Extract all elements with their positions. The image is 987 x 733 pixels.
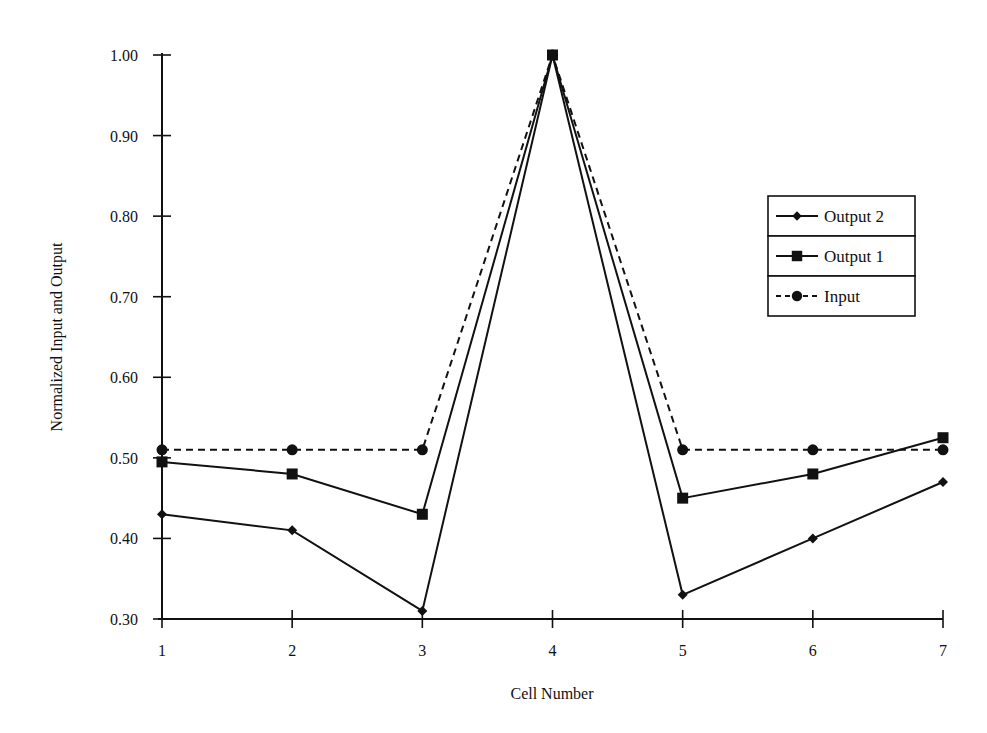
series-layer [157,50,949,616]
y-tick-label: 0.60 [110,369,138,386]
y-tick-label: 0.30 [110,611,138,628]
circle-marker [807,444,818,455]
circle-marker [287,444,298,455]
diamond-marker [808,533,818,543]
y-tick-label: 0.90 [110,128,138,145]
square-marker [157,456,168,467]
x-tick-label: 6 [809,642,817,659]
x-tick-label: 2 [288,642,296,659]
y-tick-label: 1.00 [110,47,138,64]
square-marker [287,468,298,479]
circle-marker [938,444,949,455]
legend-label: Output 2 [824,207,884,226]
y-axis-title: Normalized Input and Output [48,242,66,431]
diamond-marker [678,590,688,600]
legend: Output 2Output 1Input [768,196,915,316]
x-tick-label: 1 [158,642,166,659]
line-chart: 0.300.400.500.600.700.800.901.001234567 … [0,0,987,733]
x-tick-label: 4 [549,642,557,659]
y-tick-label: 0.70 [110,289,138,306]
square-marker [677,493,688,504]
square-marker [807,468,818,479]
x-tick-label: 5 [679,642,687,659]
diamond-marker [417,606,427,616]
circle-marker [677,444,688,455]
diamond-marker [157,509,167,519]
legend-label: Input [824,287,860,306]
square-marker [938,432,949,443]
diamond-marker [938,477,948,487]
circle-marker [792,291,802,301]
y-tick-label: 0.40 [110,530,138,547]
circle-marker [417,444,428,455]
diamond-marker [287,525,297,535]
y-tick-label: 0.80 [110,208,138,225]
x-tick-label: 3 [418,642,426,659]
series-line [162,55,943,611]
square-marker [417,509,428,520]
x-tick-label: 7 [939,642,947,659]
circle-marker [157,444,168,455]
series-output-2 [157,50,948,616]
x-axis-title: Cell Number [510,685,594,702]
y-tick-label: 0.50 [110,450,138,467]
square-marker [792,251,802,261]
legend-label: Output 1 [824,247,884,266]
